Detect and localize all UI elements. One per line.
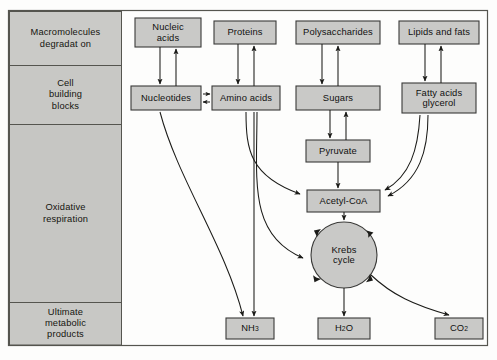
stage-cell-cell-building-blocks <box>10 66 122 125</box>
node-box-ammonia <box>226 318 274 339</box>
node-box-proteins <box>214 21 276 44</box>
edge-nucleotides-to-ammonia <box>160 112 243 316</box>
node-box-lipids-and-fats <box>399 21 479 44</box>
node-box-water <box>318 318 370 339</box>
stage-cell-oxidative-respiration <box>10 125 122 303</box>
node-box-nucleic-acids <box>135 18 201 47</box>
stage-cell-macromolecule-degradation <box>10 12 122 66</box>
node-circle-krebs-cycle <box>311 222 377 288</box>
node-box-fatty-acids-glycerol <box>402 83 476 113</box>
stage-column <box>9 11 122 345</box>
node-box-pyruvate <box>306 140 370 162</box>
node-box-polysaccharides <box>296 21 380 44</box>
edge-krebs-to-carbon-dioxide <box>371 275 449 315</box>
stage-cell-ultimate-metabolic-products <box>10 303 122 346</box>
diagram-canvas <box>0 0 497 360</box>
node-box-nucleotides <box>131 86 201 110</box>
node-box-amino-acids <box>212 86 280 110</box>
metabolism-diagram: Macromolecules degradat on Cell building… <box>0 0 497 360</box>
node-box-sugars <box>296 86 380 110</box>
node-box-carbon-dioxide <box>435 318 483 339</box>
edge-fatty-acids-to-acetyl-coa-inner <box>385 115 420 190</box>
node-box-acetyl-coa <box>307 190 380 212</box>
